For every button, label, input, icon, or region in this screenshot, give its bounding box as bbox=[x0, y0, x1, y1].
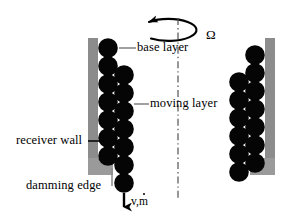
label-mass-flow-rate: m bbox=[139, 196, 148, 208]
label-moving-layer: moving layer bbox=[150, 97, 218, 110]
label-velocity: v, bbox=[131, 195, 139, 207]
left-receiver-assembly bbox=[88, 38, 134, 193]
label-rotation-omega: Ω bbox=[206, 28, 216, 41]
label-mass-flow: v,m bbox=[131, 196, 148, 208]
receiver-wall-left bbox=[88, 38, 98, 166]
label-receiver-wall: receiver wall bbox=[16, 134, 82, 147]
right-receiver-assembly bbox=[229, 38, 275, 182]
figure-canvas: base layer moving layer receiver wall da… bbox=[0, 0, 296, 218]
receiver-wall-right bbox=[265, 38, 275, 166]
label-base-layer: base layer bbox=[137, 41, 188, 54]
label-damming-edge: damming edge bbox=[26, 179, 101, 192]
rotation-arrow-icon bbox=[149, 19, 196, 41]
